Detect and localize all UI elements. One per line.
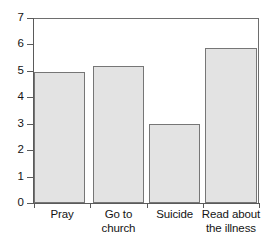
bar xyxy=(34,72,85,203)
bar xyxy=(205,48,256,203)
x-axis-category-label: Read aboutthe illness xyxy=(197,207,265,235)
bar-chart: 01234567 PrayGo tochurchSuicideRead abou… xyxy=(0,0,277,245)
bar xyxy=(93,66,144,203)
x-axis-labels: PrayGo tochurchSuicideRead aboutthe illn… xyxy=(0,207,277,245)
bar xyxy=(149,124,200,203)
